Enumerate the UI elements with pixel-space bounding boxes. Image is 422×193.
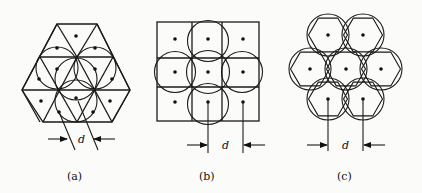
panel-label: (c): [337, 170, 352, 183]
center-dot: [173, 70, 177, 74]
center-dot: [241, 70, 245, 74]
center-dot: [93, 67, 97, 71]
center-dot: [326, 33, 330, 37]
center-dot: [93, 46, 97, 50]
center-dot: [206, 70, 210, 74]
center-dot: [74, 96, 78, 100]
grid-line: [112, 90, 130, 122]
grid-line: [22, 90, 40, 122]
grid-line: [57, 24, 77, 57]
circle: [55, 80, 97, 122]
center-dot: [110, 77, 114, 81]
center-dot: [344, 67, 348, 71]
center-dot: [361, 33, 365, 37]
circle: [55, 58, 97, 100]
center-dot: [55, 46, 59, 50]
center-dot: [91, 110, 95, 114]
center-dot: [108, 99, 112, 103]
panel-a: d (a): [22, 24, 130, 183]
center-dot: [379, 67, 383, 71]
hexagon-outline: [22, 24, 130, 122]
dimension-label: d: [342, 139, 349, 152]
dimension-label: d: [78, 133, 85, 146]
center-dot: [37, 77, 41, 81]
grid-line: [77, 24, 97, 57]
center-dot: [39, 99, 43, 103]
panel-b: d (b): [155, 21, 266, 184]
extension-line: [59, 112, 75, 150]
center-dot: [308, 67, 312, 71]
panel-c: d (c): [289, 14, 402, 183]
dimension-label: d: [222, 139, 229, 152]
panel-label: (b): [199, 170, 215, 183]
center-dot: [173, 100, 177, 104]
center-dot: [55, 67, 59, 71]
center-dot: [173, 37, 177, 41]
center-dot: [206, 37, 210, 41]
panel-label: (a): [67, 170, 82, 183]
center-dot: [241, 37, 245, 41]
center-dot: [74, 34, 78, 38]
